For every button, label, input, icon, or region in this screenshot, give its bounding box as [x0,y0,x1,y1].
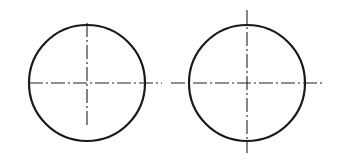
centerline-diagram [0,0,338,163]
left-figure [29,23,162,141]
diagram-canvas [0,0,338,163]
right-figure [171,10,322,153]
